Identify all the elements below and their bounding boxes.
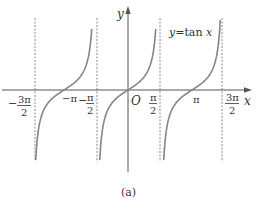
function-label: y=tan x	[168, 26, 213, 39]
x-axis-label: x	[244, 94, 251, 108]
denominator: 2	[150, 105, 156, 116]
x-axis-arrow-icon	[244, 87, 252, 92]
numerator: 3π	[226, 92, 239, 103]
figure-caption: (a)	[121, 186, 136, 199]
tick-label-pi-2: π 2	[149, 92, 157, 116]
numerator: π	[150, 92, 157, 103]
origin-label: O	[131, 94, 141, 108]
function-label-rest: =tan	[175, 26, 206, 39]
numerator: π	[87, 92, 94, 103]
tick-label-neg-pi-2: − π 2	[78, 92, 94, 116]
denominator: 2	[229, 105, 235, 116]
y-axis-label: y	[116, 7, 124, 21]
denominator: 2	[21, 107, 27, 118]
tan-graph: y x O y=tan x − 3π 2 −π − π 2 π 2 π 3π 2…	[0, 0, 258, 202]
numerator: 3π	[18, 94, 31, 105]
minus-sign: −	[8, 97, 17, 110]
tick-label-3pi-2: 3π 2	[225, 92, 239, 116]
minus-sign: −	[78, 94, 87, 107]
denominator: 2	[87, 105, 93, 116]
function-label-x: x	[206, 26, 213, 39]
tick-label-neg-pi: −π	[62, 93, 77, 104]
tick-label-neg-3pi-2: − 3π 2	[8, 94, 31, 118]
tick-label-pi: π	[193, 94, 200, 105]
y-axis-arrow-icon	[125, 6, 130, 14]
